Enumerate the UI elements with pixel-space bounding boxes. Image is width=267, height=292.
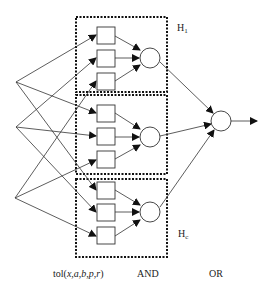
or-connections bbox=[160, 62, 214, 207]
tol-node-2-2 bbox=[97, 128, 115, 145]
tol-node-1-2 bbox=[97, 50, 115, 67]
tol-node-3-1 bbox=[97, 182, 115, 199]
or-node bbox=[211, 111, 231, 131]
label-or-layer: OR bbox=[209, 268, 223, 279]
label-and-layer: AND bbox=[137, 268, 159, 279]
tol-node-2-3 bbox=[97, 151, 115, 168]
tol-node-3-2 bbox=[97, 204, 115, 221]
and-node-1 bbox=[140, 48, 160, 68]
tol-node-2-1 bbox=[97, 105, 115, 122]
label-h1: H1 bbox=[177, 22, 188, 35]
and-node-2 bbox=[140, 127, 160, 147]
network-diagram: H1 Hc tol(x,a,b,p,r) AND OR bbox=[0, 0, 267, 292]
label-hc: Hc bbox=[178, 228, 188, 241]
tol-node-3-3 bbox=[97, 227, 115, 244]
tol-node-1-3 bbox=[97, 73, 115, 90]
input-connections bbox=[15, 35, 96, 236]
tol-node-1-1 bbox=[97, 27, 115, 44]
label-tolerance-layer: tol(x,a,b,p,r) bbox=[53, 268, 104, 280]
and-connections bbox=[115, 36, 140, 236]
and-node-3 bbox=[140, 202, 160, 222]
